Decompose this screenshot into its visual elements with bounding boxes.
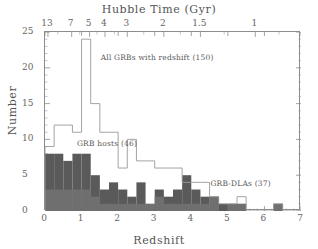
- top-axis-tick-label-6: 1.5: [192, 18, 206, 28]
- y-tick-label-4: 20: [22, 62, 38, 72]
- y-tick-label-group: 0510152025: [22, 0, 38, 249]
- y-tick-label-0: 0: [22, 205, 38, 215]
- top-axis-tick-label-1: 7: [68, 18, 74, 28]
- x-tick-label-2: 2: [114, 213, 120, 223]
- annotation-1: GRB hosts (46): [77, 139, 137, 148]
- x-tick-label-1: 1: [78, 213, 84, 223]
- y-tick-label-2: 10: [22, 133, 38, 143]
- x-tick-label-3: 3: [151, 213, 157, 223]
- y-tick-label-3: 15: [22, 98, 38, 108]
- x-tick-label-7: 7: [297, 213, 303, 223]
- annotation-0: All GRBs with redshift (150): [101, 53, 214, 62]
- top-axis-tick-label-0: 13: [41, 18, 52, 28]
- x-tick-label-6: 6: [261, 213, 267, 223]
- top-axis-tick-label-3: 4: [101, 18, 107, 28]
- x-tick-label-5: 5: [224, 213, 230, 223]
- y-tick-label-5: 25: [22, 26, 38, 36]
- y-tick-label-1: 5: [22, 169, 38, 179]
- top-axis-tick-label-5: 2: [160, 18, 166, 28]
- top-axis-tick-label-7: 1: [251, 18, 257, 28]
- figure-canvas: Hubble Time (Gyr) Number 0510152025 Reds…: [0, 0, 318, 249]
- y-axis-title: Number: [6, 81, 19, 141]
- x-tick-label-4: 4: [187, 213, 193, 223]
- bottom-axis-title: Redshift: [0, 234, 318, 247]
- top-axis-title: Hubble Time (Gyr): [0, 3, 318, 16]
- top-axis-tick-label-2: 5: [86, 18, 92, 28]
- top-axis-tick-label-4: 3: [123, 18, 129, 28]
- annotation-2: GRB-DLAs (37): [210, 179, 270, 188]
- x-tick-label-0: 0: [41, 213, 47, 223]
